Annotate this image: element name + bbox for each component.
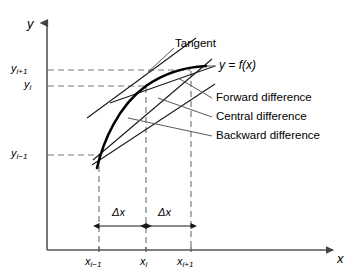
x-tick-main-i-plus-1: x	[177, 255, 183, 267]
x-tick-main-i: x	[140, 255, 146, 267]
forward-difference-line	[110, 66, 215, 103]
delta-x-label-left: Δx	[112, 207, 125, 218]
x-axis-label: x	[337, 252, 344, 265]
x-tick-sub-i-minus-1: i−1	[91, 260, 102, 269]
central-difference-leader	[158, 98, 212, 117]
y-tick-label-i-minus-1: yi−1	[11, 148, 27, 159]
backward-difference-line	[92, 84, 215, 165]
y-axis-label: y	[27, 17, 34, 30]
delta-x-label-right: Δx	[158, 207, 171, 218]
forward-difference-leader	[178, 78, 212, 98]
forward-difference-label: Forward difference	[216, 92, 312, 104]
x-tick-label-i-plus-1: xi+1	[177, 256, 193, 267]
tangent-leader	[148, 48, 174, 72]
y-tick-main-i-minus-1: y	[11, 147, 17, 159]
central-difference-line	[93, 59, 212, 160]
x-tick-main-i-minus-1: x	[85, 255, 91, 267]
y-tick-label-i-plus-1: yi+1	[11, 63, 27, 74]
function-curve	[97, 66, 206, 168]
x-tick-label-i: xi	[140, 256, 147, 267]
y-tick-label-i: yi	[24, 79, 31, 90]
x-tick-label-i-minus-1: xi−1	[85, 256, 101, 267]
y-tick-main-i-plus-1: y	[11, 62, 17, 74]
y-tick-sub-i-plus-1: i+1	[17, 67, 28, 76]
difference-lines	[87, 38, 215, 165]
y-tick-main-i: y	[24, 78, 30, 90]
curve-equation-label: y = f(x)	[219, 59, 256, 71]
backward-difference-label: Backward difference	[216, 130, 320, 142]
finite-difference-diagram: y x yi+1 yi yi−1 xi−1 xi xi+1 Δx Δx y = …	[0, 0, 356, 276]
vertical-guides	[99, 71, 191, 249]
tangent-label: Tangent	[175, 38, 216, 50]
x-tick-sub-i-plus-1: i+1	[183, 260, 194, 269]
central-difference-label: Central difference	[216, 111, 307, 123]
y-tick-sub-i-minus-1: i−1	[17, 152, 28, 161]
